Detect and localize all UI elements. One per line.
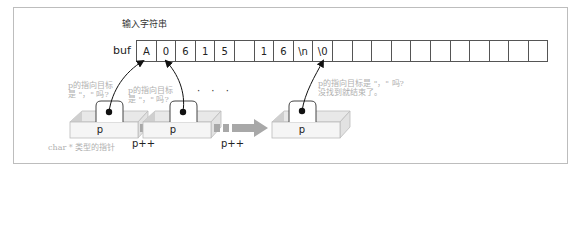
increment-label-1: p++ — [132, 138, 155, 149]
pointer-label-1: p — [72, 124, 128, 135]
note-second-line1: p的指向目标 — [128, 86, 173, 95]
note-last-line2: 没找到就结束了。 — [318, 88, 404, 97]
note-last: p的指向目标是 "，" 吗? 没找到就结束了。 — [318, 79, 404, 97]
increment-label-2: p++ — [221, 138, 244, 149]
type-caption: char * 类型的指针 — [48, 143, 115, 152]
ellipsis: · · · — [197, 85, 233, 96]
note-second-line2: 是 "，" 吗? — [128, 95, 173, 104]
pointer-label-2: p — [145, 124, 201, 135]
note-first: p的指向目标 是 "，" 吗? — [68, 81, 113, 99]
note-second: p的指向目标 是 "，" 吗? — [128, 86, 173, 104]
note-last-line1: p的指向目标是 "，" 吗? — [318, 79, 404, 88]
pointer-label-3: p — [274, 124, 330, 135]
note-first-line2: 是 "，" 吗? — [68, 90, 113, 99]
note-first-line1: p的指向目标 — [68, 81, 113, 90]
